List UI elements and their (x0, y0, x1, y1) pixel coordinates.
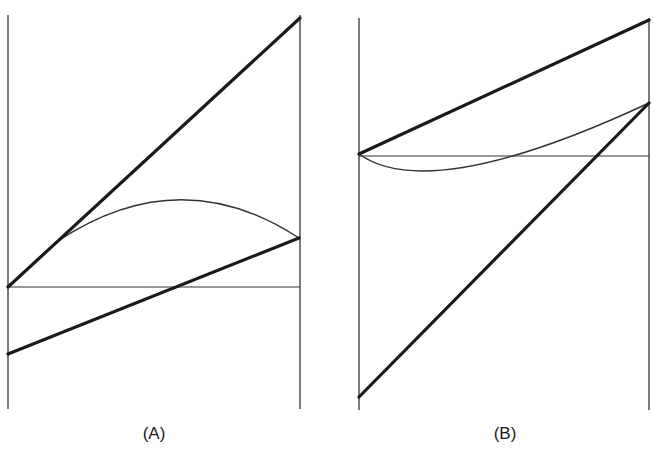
panel-a-heavy-line-1 (8, 18, 300, 287)
panel-b-heavy-line-2 (359, 103, 649, 397)
panel-a-label: (A) (143, 424, 166, 444)
panel-b-curve (359, 103, 649, 171)
panel-b-label: (B) (494, 424, 517, 444)
panel-b-heavy-line-1 (359, 20, 649, 154)
panel-a-heavy-line-2 (8, 238, 299, 354)
diagram-canvas (0, 0, 654, 475)
